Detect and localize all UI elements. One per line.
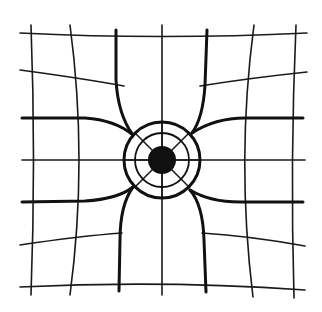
field-line-lower-left-horizontal [22,187,133,202]
grid-line-horizontal-1 [20,33,307,37]
grid-line-vertical-5 [292,25,296,298]
field-line-upper-right-vertical [192,30,207,133]
grid-line-vertical-4 [245,25,254,297]
field-line-upper-left-vertical [116,30,133,135]
field-line-upper-right-horizontal [192,118,303,133]
field-distortion-diagram [0,0,322,312]
field-line-lower-left-vertical [119,187,133,291]
central-charge-disk [148,146,176,174]
field-line-lower-right-vertical [190,190,206,292]
field-line-lower-right-horizontal [190,190,303,202]
grid-line-horizontal-2 [20,70,307,86]
